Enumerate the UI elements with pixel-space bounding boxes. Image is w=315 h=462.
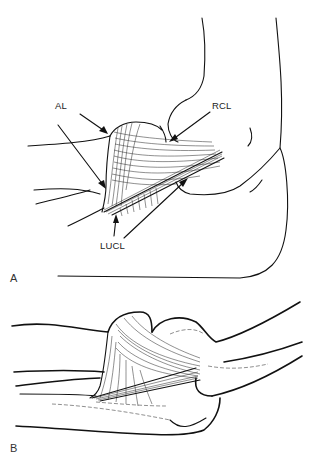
label-lucl: LUCL [100,240,125,251]
label-al: AL [55,100,67,111]
panel-label-b: B [10,442,17,454]
panel-a-drawing [0,0,315,300]
panel-label-a: A [10,272,17,284]
panel-b-drawing [0,290,315,462]
annular-ligament-fibres [108,123,220,206]
label-rcl: RCL [212,100,232,111]
lucl-band [104,150,224,216]
ligament-fan-b [90,316,200,406]
lucl-band-b [92,368,200,401]
annotation-arrows [58,112,210,238]
elbow-ligament-figure: AL RCL LUCL A [0,0,315,462]
